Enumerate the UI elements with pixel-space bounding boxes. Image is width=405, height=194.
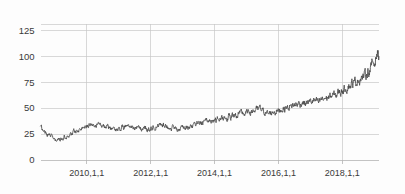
y-axis-tick-label: 25 (24, 128, 35, 139)
y-axis-tick-label: 125 (19, 25, 35, 36)
y-axis-tick-label: 75 (24, 77, 35, 88)
line-chart: 02550751001252010,1,12012,1,12014,1,1201… (0, 0, 405, 194)
y-axis-tick-label: 0 (29, 154, 34, 165)
x-axis-tick-label: 2012,1,1 (133, 168, 168, 178)
y-axis-tick-label: 100 (19, 51, 35, 62)
x-axis-tick-label: 2018,1,1 (325, 168, 360, 178)
x-axis-tick-label: 2014,1,1 (197, 168, 232, 178)
x-axis-tick-label: 2010,1,1 (69, 168, 104, 178)
series-line-price (41, 50, 380, 141)
chart-canvas: 02550751001252010,1,12012,1,12014,1,1201… (0, 0, 405, 194)
y-axis-tick-label: 50 (24, 102, 35, 113)
x-axis-tick-label: 2016,1,1 (261, 168, 296, 178)
